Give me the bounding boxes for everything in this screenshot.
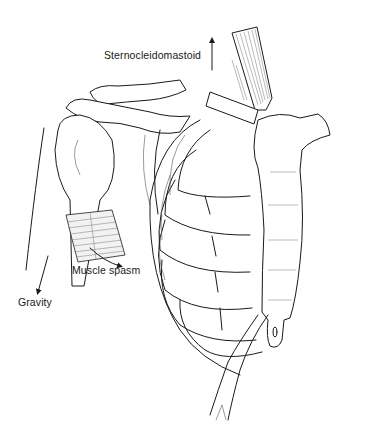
lower-ribs <box>210 315 268 420</box>
anatomical-figure: Sternocleidomastoid Muscle spasm Gravity <box>0 0 368 436</box>
rib-cage <box>150 120 262 375</box>
sternocleidomastoid-muscle <box>232 27 272 110</box>
humerus <box>26 115 114 286</box>
gravity-label: Gravity <box>18 296 52 308</box>
muscle-spasm-label: Muscle spasm <box>72 264 140 276</box>
sternocleidomastoid-label: Sternocleidomastoid <box>104 49 201 61</box>
sternum <box>254 114 330 347</box>
anatomy-drawing <box>0 0 368 436</box>
gravity-arrow-icon <box>38 256 48 292</box>
